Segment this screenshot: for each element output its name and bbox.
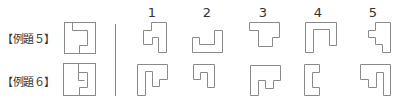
row5-option-1-shape (144, 23, 167, 53)
row6-option-5-shape (361, 65, 391, 96)
row6-option-1-shape (138, 65, 168, 96)
row6-option-3-shape (251, 66, 281, 96)
puzzle-figures (0, 0, 403, 106)
reference-5-figure (65, 23, 96, 54)
reference-6-figure (64, 64, 96, 96)
row5-option-3-shape (250, 23, 280, 47)
row6-option-2-shape (194, 65, 215, 88)
row5-option-4-shape (306, 23, 337, 53)
row5-option-2-shape (193, 31, 223, 53)
row5-option-5-shape (369, 23, 391, 53)
row6-option-4-shape (305, 65, 320, 96)
